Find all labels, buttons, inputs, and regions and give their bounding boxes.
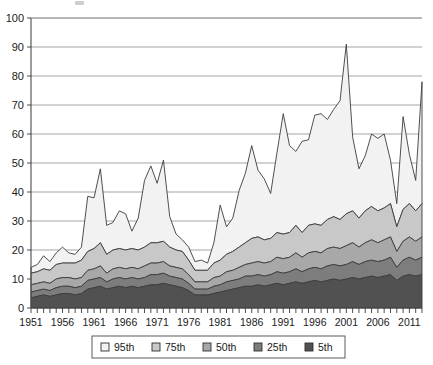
legend-swatch-95th[interactable]: [101, 343, 109, 351]
y-tick-label: 70: [12, 99, 24, 111]
x-tick-label: 1966: [114, 316, 138, 328]
y-axis-ticks: 0102030405060708090100: [6, 12, 31, 314]
chart-figure: 0102030405060708090100195119561961196619…: [0, 0, 433, 365]
x-tick-label: 2006: [366, 316, 390, 328]
y-tick-label: 10: [12, 273, 24, 285]
x-tick-label: 2001: [335, 316, 359, 328]
legend-label-50th[interactable]: 50th: [216, 341, 237, 353]
x-tick-label: 1996: [303, 316, 327, 328]
y-tick-label: 20: [12, 244, 24, 256]
y-tick-label: 40: [12, 186, 24, 198]
y-tick-label: 60: [12, 128, 24, 140]
y-tick-label: 80: [12, 70, 24, 82]
legend-swatch-5th[interactable]: [305, 343, 313, 351]
x-tick-label: 2011: [398, 316, 421, 328]
legend-label-5th[interactable]: 5th: [318, 341, 333, 353]
legend-swatch-50th[interactable]: [203, 343, 211, 351]
x-tick-label: 1971: [145, 316, 169, 328]
x-tick-label: 1981: [209, 316, 233, 328]
x-tick-label: 1951: [19, 316, 43, 328]
legend: 95th75th50th25th5th: [92, 336, 345, 358]
x-tick-label: 1976: [177, 316, 201, 328]
legend-label-25th[interactable]: 25th: [267, 341, 288, 353]
corner-artifact: [75, 1, 84, 5]
x-axis-ticks: 1951195619611966197119761981198619911996…: [19, 308, 422, 328]
y-tick-label: 0: [18, 302, 24, 314]
legend-swatch-75th[interactable]: [152, 343, 160, 351]
x-tick-label: 1956: [51, 316, 75, 328]
legend-label-75th[interactable]: 75th: [165, 341, 186, 353]
y-tick-label: 30: [12, 215, 24, 227]
y-tick-label: 100: [6, 12, 24, 24]
area-bands: [31, 44, 422, 308]
y-tick-label: 90: [12, 41, 24, 53]
x-tick-label: 1986: [240, 316, 264, 328]
y-tick-label: 50: [12, 157, 24, 169]
x-tick-label: 1961: [82, 316, 106, 328]
legend-swatch-25th[interactable]: [254, 343, 262, 351]
legend-label-95th[interactable]: 95th: [114, 341, 135, 353]
x-tick-label: 1991: [272, 316, 296, 328]
stacked-area-chart: 0102030405060708090100195119561961196619…: [0, 0, 433, 365]
